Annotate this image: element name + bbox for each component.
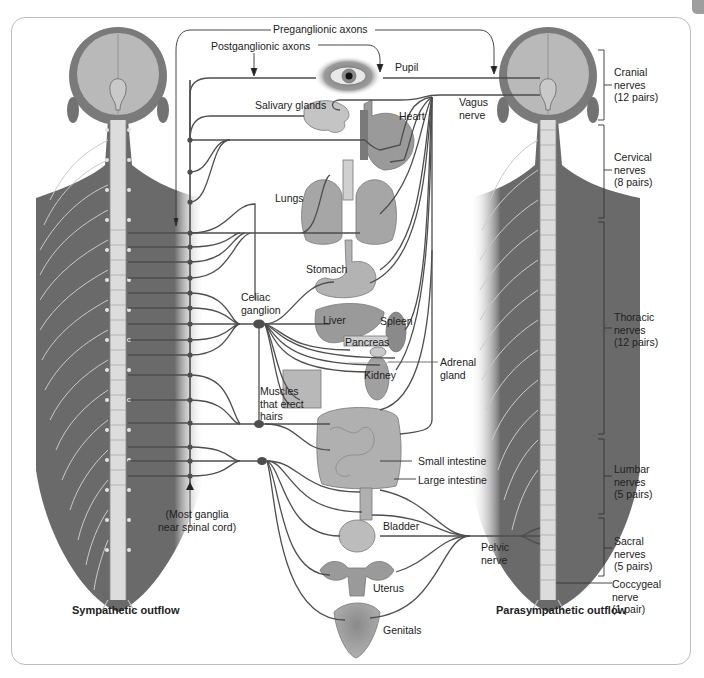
label-kidney: Kidney bbox=[364, 369, 396, 382]
label-large-intestine: Large intestine bbox=[418, 474, 487, 487]
autonomic-nervous-system-figure: Preganglionic axons Postganglionic axons… bbox=[0, 0, 704, 678]
label-postganglionic-axons: Postganglionic axons bbox=[210, 40, 311, 53]
label-salivary-glands: Salivary glands bbox=[255, 99, 326, 112]
label-uterus: Uterus bbox=[373, 582, 404, 595]
label-coccygeal-nerve: Coccygeal nerve (1 pair) bbox=[612, 578, 661, 616]
label-celiac-ganglion: Celiac ganglion bbox=[241, 291, 281, 316]
label-bladder: Bladder bbox=[383, 520, 419, 533]
label-pupil: Pupil bbox=[395, 61, 418, 74]
label-cranial-nerves: Cranial nerves (12 pairs) bbox=[614, 66, 658, 104]
label-spleen: Spleen bbox=[380, 315, 413, 328]
label-thoracic-nerves: Thoracic nerves (12 pairs) bbox=[614, 311, 658, 349]
label-muscles-erect-hairs: Muscles that erect hairs bbox=[260, 385, 304, 423]
label-pelvic-nerve: Pelvic nerve bbox=[481, 541, 509, 566]
label-sacral-nerves: Sacral nerves (5 pairs) bbox=[614, 535, 653, 573]
label-small-intestine: Small intestine bbox=[418, 455, 486, 468]
label-vagus-nerve: Vagus nerve bbox=[459, 96, 488, 121]
label-pancreas: Pancreas bbox=[345, 336, 389, 349]
label-liver: Liver bbox=[323, 314, 346, 327]
lung-left bbox=[302, 180, 343, 245]
title-parasympathetic-outflow: Parasympathetic outflow bbox=[496, 604, 626, 617]
title-sympathetic-outflow: Sympathetic outflow bbox=[72, 604, 180, 617]
label-adrenal-gland: Adrenal gland bbox=[440, 356, 476, 381]
label-cervical-nerves: Cervical nerves (8 pairs) bbox=[614, 151, 653, 189]
label-lungs: Lungs bbox=[275, 192, 304, 205]
label-most-ganglia: (Most ganglia near spinal cord) bbox=[158, 508, 236, 533]
label-heart: Heart bbox=[399, 110, 425, 123]
label-stomach: Stomach bbox=[306, 263, 347, 276]
lung-right bbox=[356, 180, 397, 245]
intestines bbox=[317, 408, 401, 489]
label-genitals: Genitals bbox=[383, 624, 422, 637]
label-preganglionic-axons: Preganglionic axons bbox=[272, 23, 369, 36]
bladder bbox=[339, 520, 375, 552]
genitals bbox=[334, 603, 380, 658]
label-lumbar-nerves: Lumbar nerves (5 pairs) bbox=[614, 463, 653, 501]
